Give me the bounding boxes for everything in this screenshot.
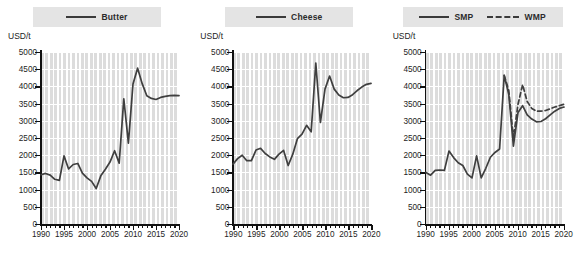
y-axis-tick	[420, 155, 425, 156]
x-axis-tick-label: 2015	[339, 230, 357, 239]
x-axis-tick-major	[472, 225, 473, 230]
y-axis-tick	[35, 207, 40, 208]
x-axis-tick-minor	[161, 225, 162, 228]
x-axis-tick-minor	[307, 225, 308, 228]
x-axis-tick-label: 2020	[170, 230, 188, 239]
x-axis-tick-minor	[101, 225, 102, 228]
y-axis-tick	[227, 138, 232, 139]
x-axis-tick-major	[302, 225, 303, 230]
series-svg-cheese	[192, 0, 384, 263]
x-axis-tick-minor	[490, 225, 491, 228]
y-axis-tick	[227, 172, 232, 173]
x-axis-tick-label: 2005	[486, 230, 504, 239]
x-axis-tick-minor	[444, 225, 445, 228]
x-axis-tick-minor	[554, 225, 555, 228]
chart-panel-butter: Butter USD/t 050010001500200025003000350…	[0, 0, 192, 263]
y-axis-tick	[420, 224, 425, 225]
x-axis-tick-minor	[362, 225, 363, 228]
y-axis-tick	[420, 190, 425, 191]
x-axis-tick-minor	[69, 225, 70, 228]
y-axis-tick	[420, 138, 425, 139]
x-axis-tick-label: 2015	[147, 230, 165, 239]
x-axis-tick-minor	[536, 225, 537, 228]
y-axis-tick	[420, 172, 425, 173]
x-axis-tick-label: 2020	[362, 230, 380, 239]
y-axis-tick	[227, 190, 232, 191]
x-axis-tick-major	[179, 225, 180, 230]
x-axis-tick-major	[87, 225, 88, 230]
series-svg-smp-wmp	[385, 0, 577, 263]
x-axis-tick-minor	[481, 225, 482, 228]
x-axis-tick-minor	[247, 225, 248, 228]
x-axis-tick-major	[518, 225, 519, 230]
series-svg-butter	[0, 0, 192, 263]
x-axis-tick-major	[426, 225, 427, 230]
x-axis-tick-minor	[284, 225, 285, 228]
x-axis-tick-minor	[527, 225, 528, 228]
y-axis-tick	[35, 104, 40, 105]
x-axis-tick-minor	[330, 225, 331, 228]
x-axis-tick-minor	[96, 225, 97, 228]
x-axis-tick-minor	[138, 225, 139, 228]
y-axis-tick	[35, 138, 40, 139]
x-axis-tick-minor	[124, 225, 125, 228]
x-axis-tick-minor	[321, 225, 322, 228]
x-axis-tick-label: 2020	[555, 230, 573, 239]
x-axis-tick-label: 2010	[124, 230, 142, 239]
y-axis-tick	[420, 121, 425, 122]
x-axis-tick-label: 2015	[532, 230, 550, 239]
x-axis-tick-minor	[513, 225, 514, 228]
x-axis-tick-minor	[559, 225, 560, 228]
x-axis-tick-label: 2000	[78, 230, 96, 239]
x-axis-tick-major	[233, 225, 234, 230]
x-axis-tick-major	[133, 225, 134, 230]
x-axis-tick-minor	[46, 225, 47, 228]
x-axis-tick-minor	[73, 225, 74, 228]
x-axis-tick-minor	[367, 225, 368, 228]
x-axis-tick-label: 2010	[509, 230, 527, 239]
x-axis-tick-minor	[78, 225, 79, 228]
x-axis-tick-minor	[55, 225, 56, 228]
x-axis-tick-minor	[298, 225, 299, 228]
x-axis-tick-label: 2005	[101, 230, 119, 239]
y-axis-tick	[35, 69, 40, 70]
y-axis-tick	[420, 104, 425, 105]
x-axis-tick-minor	[275, 225, 276, 228]
x-axis-tick-minor	[50, 225, 51, 228]
x-axis-tick-label: 1990	[224, 230, 242, 239]
x-axis-tick-minor	[476, 225, 477, 228]
x-axis-tick-minor	[252, 225, 253, 228]
x-axis-tick-major	[449, 225, 450, 230]
y-axis-tick	[35, 52, 40, 53]
y-axis-tick	[35, 121, 40, 122]
y-axis-tick	[227, 69, 232, 70]
x-axis-tick-label: 2000	[463, 230, 481, 239]
chart-panel-smp-wmp: SMP WMP USD/t 05001000150020002500300035…	[385, 0, 577, 263]
x-axis-tick-minor	[270, 225, 271, 228]
x-axis-tick-minor	[435, 225, 436, 228]
x-axis-tick-minor	[312, 225, 313, 228]
x-axis-tick-minor	[344, 225, 345, 228]
x-axis-tick-label: 1995	[55, 230, 73, 239]
x-axis-tick-minor	[266, 225, 267, 228]
x-axis-tick-minor	[238, 225, 239, 228]
x-axis-tick-minor	[59, 225, 60, 228]
x-axis-tick-minor	[545, 225, 546, 228]
x-axis-tick-major	[256, 225, 257, 230]
x-axis-tick-minor	[531, 225, 532, 228]
x-axis-tick-minor	[147, 225, 148, 228]
x-axis-tick-minor	[462, 225, 463, 228]
x-axis-tick-major	[564, 225, 565, 230]
x-axis-tick-minor	[142, 225, 143, 228]
x-axis-tick-minor	[316, 225, 317, 228]
y-axis-tick	[227, 224, 232, 225]
x-axis-tick-minor	[485, 225, 486, 228]
x-axis-tick-minor	[165, 225, 166, 228]
y-axis-tick	[35, 224, 40, 225]
x-axis-tick-minor	[499, 225, 500, 228]
data-line-cheese	[233, 63, 371, 166]
x-axis-tick-minor	[522, 225, 523, 228]
x-axis-tick-major	[41, 225, 42, 230]
x-axis-tick-minor	[289, 225, 290, 228]
x-axis-tick-major	[110, 225, 111, 230]
